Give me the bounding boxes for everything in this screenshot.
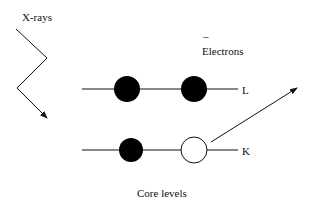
electron-charge-label: – [203, 30, 209, 42]
xray-arrow-icon [16, 29, 47, 118]
l-electron-2 [181, 76, 207, 102]
xrays-label: X-rays [22, 11, 52, 23]
diagram-canvas [0, 0, 314, 206]
level-l-label: L [242, 84, 249, 96]
ejected-electron-arrow-icon [211, 88, 297, 142]
l-electron-1 [114, 76, 140, 102]
caption-core-levels: Core levels [137, 187, 187, 199]
level-k-label: K [242, 145, 250, 157]
electrons-label: Electrons [202, 45, 244, 57]
k-electron [119, 138, 143, 162]
k-vacancy [181, 137, 207, 163]
